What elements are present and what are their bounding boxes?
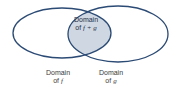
domain-f-label-line2: of f bbox=[38, 77, 78, 85]
domain-g-label-line1: Domain bbox=[91, 69, 131, 77]
intersection-label: Domain of f + g bbox=[66, 16, 106, 32]
domain-g-label-line2: of g bbox=[91, 77, 131, 85]
domain-f-label: Domain of f bbox=[38, 69, 78, 85]
domain-f-label-line1: Domain bbox=[38, 69, 78, 77]
intersection-label-line1: Domain bbox=[66, 16, 106, 24]
intersection-label-line2: of f + g bbox=[66, 24, 106, 32]
venn-diagram: Domain of f + g Domain of f Domain of g bbox=[0, 0, 180, 95]
domain-g-label: Domain of g bbox=[91, 69, 131, 85]
venn-shapes bbox=[0, 0, 180, 95]
